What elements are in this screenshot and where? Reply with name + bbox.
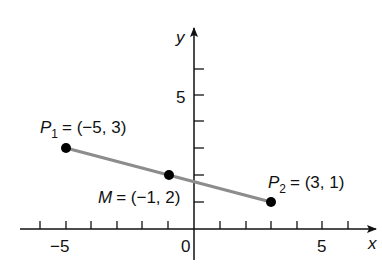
- x-tick-label-0: 0: [181, 237, 190, 256]
- x-tick-label-neg5: −5: [50, 237, 69, 256]
- label-m: M= (−1, 2): [98, 188, 180, 207]
- x-axis-label: x: [367, 234, 377, 253]
- label-p2-name: P: [268, 173, 280, 192]
- label-p2: P2= (3, 1): [268, 173, 344, 196]
- label-m-coords: = (−1, 2): [116, 188, 180, 207]
- label-p1: P1= (−5, 3): [40, 118, 126, 141]
- label-p1-sub: 1: [51, 127, 58, 141]
- label-p2-sub: 2: [279, 182, 286, 196]
- point-p2: [266, 197, 276, 207]
- label-p2-coords: = (3, 1): [290, 173, 344, 192]
- label-p1-name: P: [40, 118, 52, 137]
- y-tick-label-5: 5: [176, 88, 185, 107]
- label-m-name: M: [98, 188, 113, 207]
- point-m: [164, 170, 174, 180]
- label-p1-coords: = (−5, 3): [62, 118, 126, 137]
- y-axis-label: y: [175, 28, 186, 47]
- point-p1: [61, 143, 71, 153]
- x-tick-label-5: 5: [317, 237, 326, 256]
- coordinate-plane: y x −5 0 5 5 P1= (−5, 3) M= (−1, 2) P2= …: [0, 0, 382, 276]
